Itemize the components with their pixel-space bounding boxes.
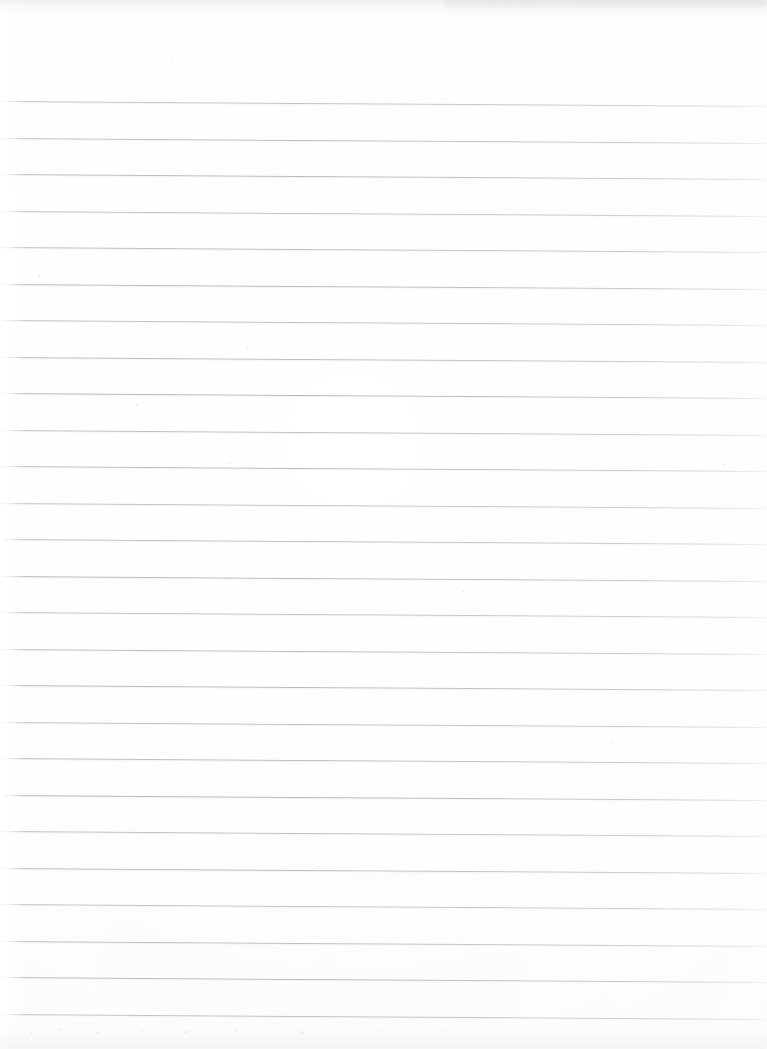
scanned-page	[0, 0, 767, 1049]
paper-surface	[0, 0, 767, 1049]
